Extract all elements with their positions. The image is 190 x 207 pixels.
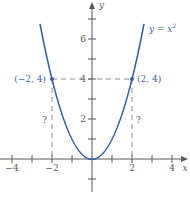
x-tick-label-neg4: −4 [5,163,19,173]
x-tick-label-4: 4 [169,163,175,173]
y-tick-label-6: 6 [80,34,86,44]
y-axis-arrow-icon [89,2,95,9]
x-axis-label: x [182,163,187,173]
y-axis-label: y [98,0,105,10]
point-2-4 [130,77,134,81]
point-label-right: (2, 4) [137,74,161,84]
x-tick-label-neg2: −2 [45,163,58,173]
point-neg2-4 [50,77,54,81]
y-tick-label-2: 2 [80,114,86,124]
question-mark-right: ? [136,115,141,125]
y-tick-label-4: 4 [80,74,86,84]
x-axis-arrow-icon [181,156,188,162]
y-axis [88,8,96,192]
curve-equation-label: y = x2 [148,22,176,34]
parabola-chart: −4 −2 2 4 6 4 2 x y (−2, 4) (2, 4) ? ? y… [0,0,190,207]
x-tick-label-2: 2 [129,163,135,173]
question-mark-left: ? [42,115,47,125]
point-label-left: (−2, 4) [14,74,46,84]
